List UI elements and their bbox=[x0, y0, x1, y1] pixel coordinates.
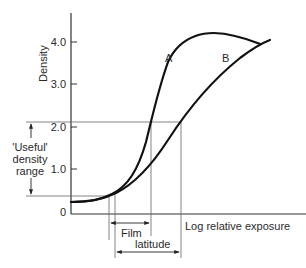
y-tick-4: 4.0 bbox=[36, 36, 66, 48]
x-axis-label: Log relative exposure bbox=[185, 220, 290, 232]
film-latitude-label-2: latitude bbox=[135, 238, 170, 250]
axes bbox=[71, 13, 306, 214]
curve-b-label: B bbox=[222, 52, 229, 64]
curve-a-label: A bbox=[165, 52, 172, 64]
curve-b bbox=[71, 40, 270, 202]
y-tick-2: 2.0 bbox=[36, 121, 66, 133]
y-tick-0: 0 bbox=[36, 206, 66, 218]
y-tick-3: 3.0 bbox=[36, 78, 66, 90]
useful-density-label-3: range bbox=[3, 165, 57, 177]
useful-density-label-2: density bbox=[3, 153, 57, 165]
y-axis-label: Density bbox=[37, 45, 49, 82]
useful-density-label-1: 'Useful' bbox=[3, 141, 57, 153]
